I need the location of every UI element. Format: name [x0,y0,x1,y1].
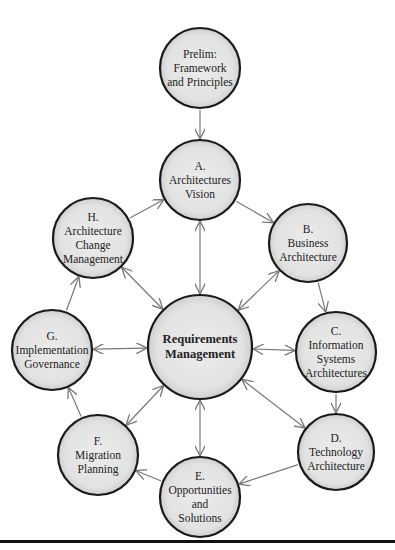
node-circle-prelim [160,28,240,108]
bottom-divider [0,540,395,543]
node-circle-b [269,204,347,282]
arrow-center-to-h [122,268,162,308]
arrow-center-to-f [127,386,163,424]
arrow-center-to-g [94,348,146,349]
node-circle-h [53,198,133,278]
node-circle-f [58,415,138,495]
arrow-center-to-d [243,380,305,428]
arrow-f-to-g [69,388,81,416]
node-circle-a [160,140,240,220]
arrow-h-to-a [130,200,163,218]
arrow-d-to-e [240,465,298,484]
node-circle-c [296,312,376,392]
diagram-canvas [0,0,395,550]
arrow-center-to-c [254,349,294,350]
node-layer [12,28,376,537]
node-circle-g [12,310,92,390]
node-circle-center [148,295,252,399]
arrow-a-to-b [236,201,272,222]
arrow-b-to-c [318,283,325,312]
node-circle-d [298,414,374,490]
arrow-e-to-f [137,471,161,481]
arrow-center-to-b [239,271,279,309]
arrow-g-to-h [66,277,78,310]
node-circle-e [160,457,240,537]
